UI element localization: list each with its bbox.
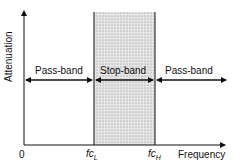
stop-band-region (94, 12, 155, 145)
y-axis-label: Attenuation (3, 31, 14, 82)
x-axis-label: Frequency (178, 150, 225, 160)
cutoff-high-label: fcH (148, 149, 161, 163)
origin-label: 0 (19, 150, 25, 160)
pass-band-label-left: Pass-band (35, 66, 83, 76)
filter-diagram (0, 0, 242, 167)
stop-band-label: Stop-band (100, 66, 146, 76)
cutoff-low-label: fcL (86, 149, 98, 163)
pass-band-label-right: Pass-band (165, 66, 213, 76)
